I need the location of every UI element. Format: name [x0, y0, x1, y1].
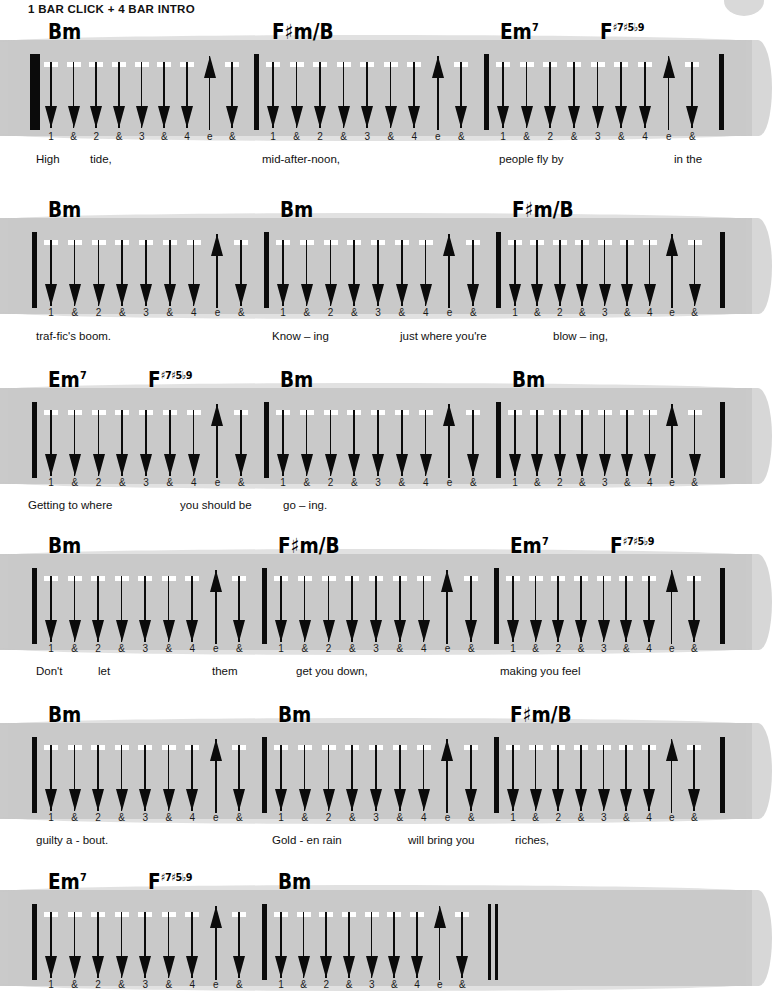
- count-label: &: [234, 477, 248, 488]
- count-label: &: [300, 477, 314, 488]
- count-label: &: [466, 307, 480, 318]
- down-strum-arrow: [300, 240, 314, 306]
- down-strum-arrow: [44, 62, 58, 128]
- strum-arrowhead: [69, 620, 81, 642]
- count-label: 4: [417, 643, 431, 654]
- brush-top-edge: [0, 718, 752, 725]
- strum-arrowhead: [456, 956, 468, 978]
- strum-arrowhead: [45, 620, 57, 642]
- count-label: 1: [496, 131, 510, 142]
- down-strum-arrow: [266, 62, 280, 128]
- count-label: &: [67, 131, 81, 142]
- brush-top-edge: [0, 213, 752, 220]
- strum-arrowhead: [598, 789, 610, 811]
- chord-symbol: F♯m/B: [512, 200, 574, 221]
- count-label: 2: [551, 643, 565, 654]
- down-strum-arrow: [574, 745, 588, 811]
- strum-arrowhead: [366, 956, 378, 978]
- count-label: &: [162, 643, 176, 654]
- strum-arrowhead: [418, 620, 430, 642]
- count-label: e: [440, 812, 454, 823]
- count-label: e: [203, 131, 217, 142]
- down-strum-arrow: [419, 410, 433, 476]
- strum-arrowhead: [568, 106, 580, 128]
- down-strum-arrow: [553, 410, 567, 476]
- up-strum-arrow: [665, 404, 679, 478]
- count-label: &: [115, 307, 129, 318]
- count-label: 3: [591, 131, 605, 142]
- down-strum-arrow: [347, 240, 361, 306]
- down-strum-arrow: [187, 240, 201, 306]
- strum-arrowhead: [338, 106, 350, 128]
- down-strum-arrow: [575, 410, 589, 476]
- strum-arrowhead: [45, 789, 57, 811]
- strum-arrowhead: [346, 620, 358, 642]
- down-strum-arrow: [319, 912, 333, 978]
- down-strum-arrow: [464, 576, 478, 642]
- count-label: &: [342, 979, 356, 990]
- barline-measure-3: [496, 402, 501, 478]
- barline-end: [720, 402, 725, 478]
- down-strum-arrow: [551, 745, 565, 811]
- lyric-text: tide,: [90, 153, 112, 165]
- strum-arrowhead: [139, 956, 151, 978]
- down-strum-arrow: [44, 240, 58, 306]
- count-label: &: [68, 643, 82, 654]
- count-label: &: [530, 477, 544, 488]
- count-label: 3: [365, 979, 379, 990]
- strum-arrowhead: [140, 454, 152, 476]
- strum-arrowhead: [576, 284, 588, 306]
- down-strum-arrow: [162, 745, 176, 811]
- count-label: &: [300, 307, 314, 318]
- strum-arrowhead: [394, 620, 406, 642]
- down-strum-arrow: [44, 912, 58, 978]
- strum-arrowhead: [509, 454, 521, 476]
- up-strum-arrow: [665, 739, 679, 813]
- strum-arrowhead: [575, 620, 587, 642]
- lyric-text: mid-after-noon,: [262, 153, 340, 165]
- count-label: &: [115, 643, 129, 654]
- up-strum-arrow: [440, 739, 454, 813]
- up-strum-arrow: [442, 234, 456, 308]
- count-label: 2: [553, 307, 567, 318]
- count-label: 1: [274, 812, 288, 823]
- count-label: e: [433, 979, 447, 990]
- count-label: &: [530, 307, 544, 318]
- strum-arrowhead: [576, 454, 588, 476]
- strum-arrowhead: [113, 106, 125, 128]
- down-strum-arrow: [290, 62, 304, 128]
- strum-arrowhead: [420, 284, 432, 306]
- down-strum-arrow: [115, 410, 129, 476]
- strum-arrowhead: [666, 234, 678, 256]
- barline-end: [720, 568, 725, 644]
- lyric-text: go – ing.: [283, 499, 327, 511]
- strum-arrowhead: [441, 739, 453, 761]
- count-label: &: [393, 812, 407, 823]
- strum-arrowhead: [45, 956, 57, 978]
- down-strum-arrow: [68, 410, 82, 476]
- barline-measure-1: [32, 232, 37, 308]
- count-label: &: [685, 131, 699, 142]
- down-strum-arrow: [162, 576, 176, 642]
- down-strum-arrow: [44, 576, 58, 642]
- lyric-text: riches,: [515, 834, 549, 846]
- down-strum-arrow: [185, 576, 199, 642]
- strum-arrowhead: [45, 454, 57, 476]
- down-strum-arrow: [619, 745, 633, 811]
- down-strum-arrow: [180, 62, 194, 128]
- count-label: 4: [187, 477, 201, 488]
- down-strum-arrow: [297, 912, 311, 978]
- strum-arrowhead: [139, 620, 151, 642]
- count-label: 3: [371, 477, 385, 488]
- strum-arrowhead: [163, 956, 175, 978]
- down-strum-arrow: [274, 912, 288, 978]
- page-title: 1 BAR CLICK + 4 BAR INTRO: [28, 3, 195, 15]
- down-strum-arrow: [234, 410, 248, 476]
- down-strum-arrow: [138, 745, 152, 811]
- strum-arrowhead: [552, 789, 564, 811]
- count-label: 3: [371, 307, 385, 318]
- strum-arrowhead: [599, 454, 611, 476]
- lyric-text: making you feel: [500, 665, 581, 677]
- count-label: &: [529, 812, 543, 823]
- strum-arrowhead: [465, 789, 477, 811]
